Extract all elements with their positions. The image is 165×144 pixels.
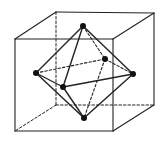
cube-edge bbox=[113, 105, 154, 131]
octahedron-in-cube-diagram: Octahedron inscribed in a cube bbox=[0, 0, 165, 144]
octahedron-edge bbox=[63, 74, 133, 87]
cube-hidden-edge bbox=[15, 105, 56, 131]
octahedron-edge bbox=[83, 26, 133, 74]
octahedron-hidden-edges bbox=[36, 26, 133, 118]
vertex-dot-left bbox=[33, 70, 39, 76]
octahedron-edge bbox=[36, 73, 84, 118]
octahedron-vertices bbox=[33, 23, 136, 121]
octahedron-edge bbox=[63, 87, 84, 118]
vertex-dot-back bbox=[102, 56, 108, 62]
cube-edge bbox=[15, 12, 56, 39]
diagram-canvas: Octahedron inscribed in a cube bbox=[0, 0, 165, 144]
octahedron-edge bbox=[84, 74, 133, 118]
vertex-dot-front bbox=[60, 84, 66, 90]
octahedron-visible-edges bbox=[36, 26, 133, 118]
vertex-dot-top bbox=[80, 23, 86, 29]
cube-edge bbox=[56, 12, 154, 13]
vertex-dot-right bbox=[130, 71, 136, 77]
vertex-dot-bottom bbox=[81, 115, 87, 121]
cube-edge bbox=[113, 13, 154, 39]
octahedron-hidden-edge bbox=[83, 26, 105, 59]
